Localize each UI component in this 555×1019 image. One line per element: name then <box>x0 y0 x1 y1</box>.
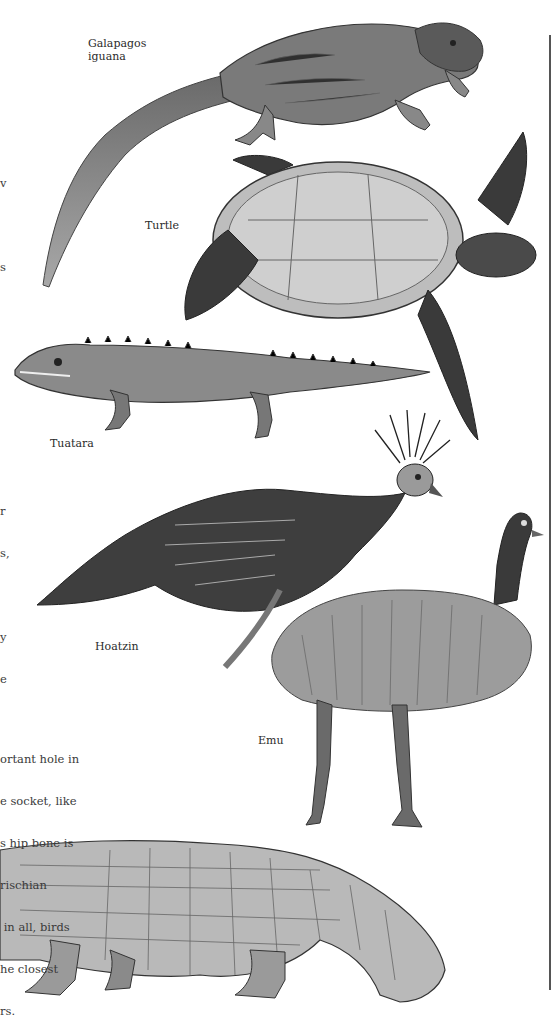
paragraph-line: s hip bone is <box>0 836 79 850</box>
turtle-caption: Turtle <box>145 219 179 232</box>
iguana-caption-line2: iguana <box>88 50 146 63</box>
margin-text-line: v <box>0 176 7 190</box>
margin-text-line <box>0 218 7 232</box>
margin-text-line <box>0 588 10 602</box>
margin-text-top: v s <box>0 148 7 288</box>
emu-illustration <box>262 505 547 835</box>
margin-text-middle: r s, y e <box>0 476 10 700</box>
paragraph-line: rischian <box>0 878 79 892</box>
paragraph-line: ortant hole in <box>0 752 79 766</box>
paragraph-line: rs. <box>0 1004 79 1018</box>
margin-text-line: e <box>0 672 10 686</box>
hoatzin-caption: Hoatzin <box>95 640 139 653</box>
margin-text-line: r <box>0 504 10 518</box>
body-paragraph-fragment: ortant hole in e socket, like s hip bone… <box>0 724 79 1019</box>
margin-text-line: y <box>0 630 10 644</box>
margin-text-line: s <box>0 260 7 274</box>
margin-text-line: s, <box>0 546 10 560</box>
iguana-caption-line1: Galapagos <box>88 37 146 50</box>
paragraph-line: he closest <box>0 962 79 976</box>
iguana-caption: Galapagos iguana <box>88 37 146 63</box>
emu-caption: Emu <box>258 734 284 747</box>
paragraph-line: e socket, like <box>0 794 79 808</box>
paragraph-line: in all, birds <box>0 920 79 934</box>
